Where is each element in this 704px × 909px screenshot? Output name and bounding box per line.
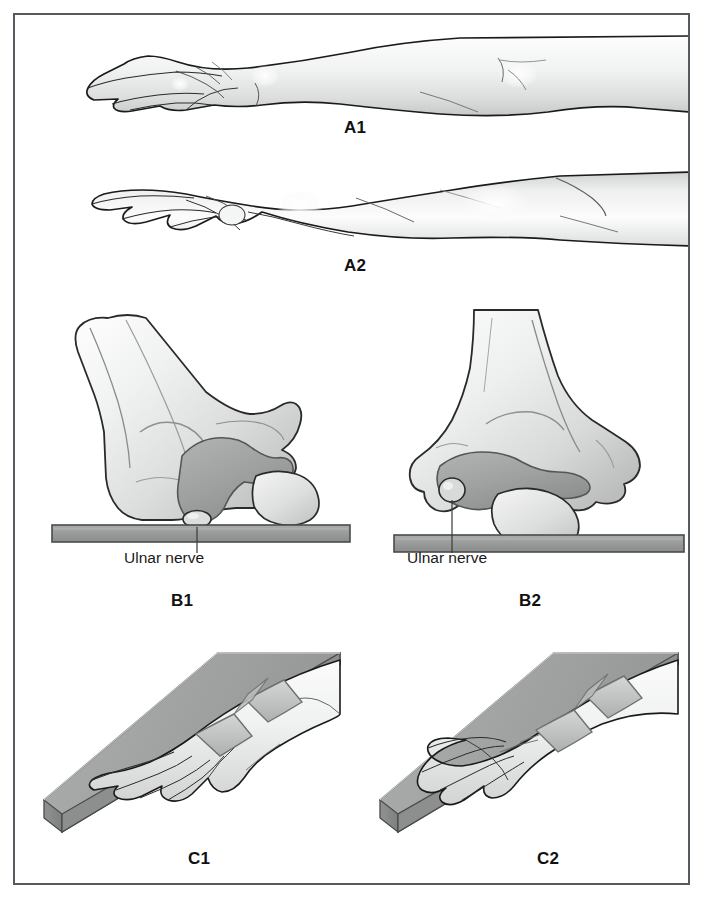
panel-label-c1: C1 (188, 849, 210, 869)
figure-root: A1 A2 Ulnar nerve B1 Ulnar nerve B2 C1 C… (0, 0, 704, 909)
ulnar-nerve-label-b1: Ulnar nerve (124, 549, 204, 567)
panel-label-b1: B1 (171, 591, 193, 611)
panel-label-a2: A2 (344, 256, 366, 276)
figure-border (13, 13, 690, 885)
panel-label-c2: C2 (537, 849, 559, 869)
panel-label-b2: B2 (519, 591, 541, 611)
ulnar-nerve-label-b2: Ulnar nerve (407, 549, 487, 567)
panel-label-a1: A1 (344, 118, 366, 138)
